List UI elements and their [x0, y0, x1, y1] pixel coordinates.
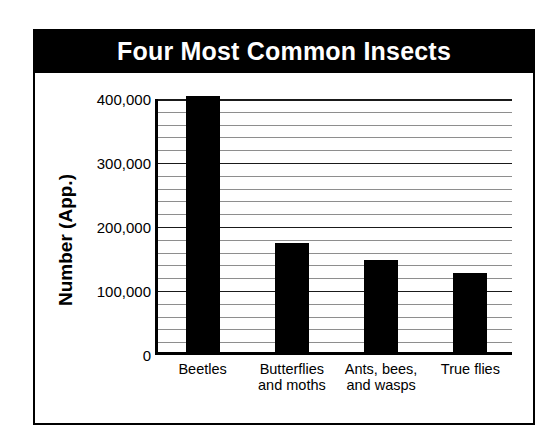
x-category-label-line: Butterflies	[258, 361, 326, 377]
y-tick-label: 200,000	[97, 219, 151, 236]
y-tick-label: 300,000	[97, 155, 151, 172]
x-category-label: Ants, bees,and wasps	[345, 361, 418, 393]
chart-title: Four Most Common Insects	[117, 37, 451, 66]
y-tick-label: 400,000	[97, 91, 151, 108]
x-category-label: Butterfliesand moths	[258, 361, 326, 393]
x-category-label-line: and wasps	[345, 377, 418, 393]
bar	[275, 243, 309, 352]
plot-area: 0100,000200,000300,000400,000 BeetlesBut…	[155, 99, 512, 355]
x-category-label-line: True flies	[441, 361, 500, 377]
x-category-label-line: Ants, bees,	[345, 361, 418, 377]
bar	[364, 260, 398, 352]
y-tick-label: 100,000	[97, 283, 151, 300]
x-category-label-line: and moths	[258, 377, 326, 393]
x-category-label: True flies	[441, 361, 500, 377]
chart-figure: Four Most Common Insects Number (App.) 0…	[0, 0, 560, 445]
x-category-label-line: Beetles	[178, 361, 226, 377]
chart-title-banner: Four Most Common Insects	[33, 29, 535, 73]
bar	[186, 96, 220, 352]
bar	[453, 273, 487, 352]
x-category-label: Beetles	[178, 361, 226, 377]
y-tick-label: 0	[143, 347, 151, 364]
y-axis-title: Number (App.)	[51, 140, 81, 340]
